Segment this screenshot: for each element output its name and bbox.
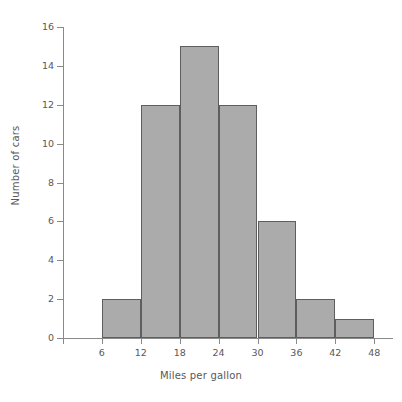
histogram-bar	[335, 319, 374, 338]
y-tick-mark	[57, 66, 63, 67]
y-tick-label: 14	[30, 61, 54, 71]
y-tick-mark	[57, 183, 63, 184]
y-tick-mark	[57, 144, 63, 145]
x-tick-label: 18	[165, 348, 195, 358]
x-tick-label: 6	[87, 348, 117, 358]
y-tick-mark	[57, 105, 63, 106]
histogram-bar	[296, 299, 335, 338]
x-tick-label: 48	[359, 348, 389, 358]
histogram-bar	[141, 105, 180, 338]
x-tick-mark	[335, 338, 336, 344]
x-tick-label: 12	[126, 348, 156, 358]
x-tick-mark	[296, 338, 297, 344]
y-tick-label: 4	[30, 255, 54, 265]
histogram-bar	[219, 105, 258, 338]
y-tick-label: 0	[30, 333, 54, 343]
y-tick-mark	[57, 27, 63, 28]
y-tick-label: 8	[30, 178, 54, 188]
x-tick-mark	[180, 338, 181, 344]
histogram-bar	[102, 299, 141, 338]
x-axis-title: Miles per gallon	[0, 370, 402, 381]
y-tick-mark	[57, 221, 63, 222]
y-tick-label: 10	[30, 139, 54, 149]
x-tick-mark	[374, 338, 375, 344]
x-tick-mark	[141, 338, 142, 344]
x-tick-mark	[219, 338, 220, 344]
y-tick-mark	[57, 299, 63, 300]
y-axis-title: Number of cars	[10, 106, 21, 226]
histogram-bar	[180, 46, 219, 338]
y-tick-label: 12	[30, 100, 54, 110]
x-tick-label: 36	[281, 348, 311, 358]
histogram-chart: 0246810121416 612182430364248 Number of …	[0, 0, 402, 402]
y-tick-label: 6	[30, 216, 54, 226]
x-tick-label: 24	[204, 348, 234, 358]
x-tick-mark	[258, 338, 259, 344]
x-tick-mark	[102, 338, 103, 344]
y-tick-label: 16	[30, 22, 54, 32]
y-tick-mark	[57, 260, 63, 261]
histogram-bar	[258, 221, 297, 338]
x-tick-label: 30	[243, 348, 273, 358]
y-tick-label: 2	[30, 294, 54, 304]
x-axis-line	[63, 338, 393, 339]
x-tick-mark	[63, 338, 64, 344]
y-axis-line	[63, 27, 64, 339]
x-tick-label: 42	[320, 348, 350, 358]
